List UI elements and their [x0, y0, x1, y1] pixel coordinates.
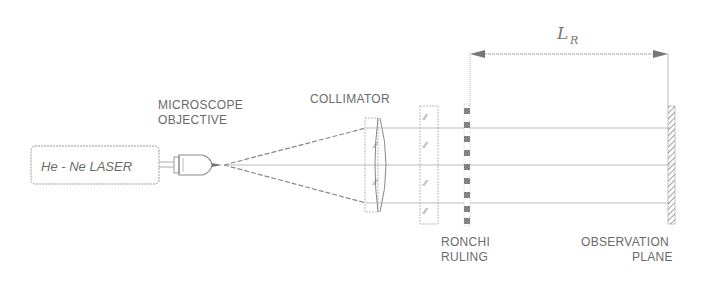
- glass-plate: ⁄⁄ ⁄⁄ ⁄⁄ ⁄⁄: [420, 106, 438, 224]
- ronchi-ruling: [464, 104, 470, 226]
- observation-plane: [668, 106, 675, 224]
- dimension-subscript: R: [569, 34, 578, 47]
- diverging-beam: [224, 128, 670, 203]
- ronchi-label-line1: RONCHI: [441, 235, 490, 249]
- laser-connector: [159, 162, 174, 167]
- microscope-objective: [174, 155, 222, 175]
- observation-label-line1: OBSERVATION: [581, 235, 669, 249]
- optical-setup-diagram: He - Ne LASER MICROSCOPE OBJECTIVE: [0, 0, 715, 296]
- laser-label: He - Ne LASER: [41, 159, 132, 174]
- objective-label-line1: MICROSCOPE: [158, 98, 243, 112]
- laser-source: He - Ne LASER: [31, 146, 159, 184]
- dimension-symbol: L: [556, 23, 568, 43]
- objective-label-line2: OBJECTIVE: [158, 113, 227, 127]
- diagram-svg: He - Ne LASER MICROSCOPE OBJECTIVE: [0, 0, 715, 296]
- collimated-beam: [366, 128, 670, 203]
- collimator-label: COLLIMATOR: [310, 92, 390, 106]
- arrow-right-icon: [653, 50, 668, 58]
- svg-text:⁄⁄: ⁄⁄: [372, 177, 379, 187]
- arrow-left-icon: [470, 50, 485, 58]
- ronchi-label-line2: RULING: [441, 250, 488, 264]
- dimension-lr: L R: [470, 23, 668, 106]
- svg-text:⁄⁄: ⁄⁄: [372, 140, 379, 150]
- observation-label-line2: PLANE: [632, 250, 673, 264]
